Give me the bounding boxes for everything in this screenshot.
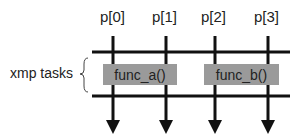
task-box-func-b: func_b() — [204, 64, 279, 85]
task-label: func_a() — [114, 67, 165, 83]
process-label-2: p[2] — [201, 8, 226, 25]
group-label: xmp tasks — [10, 65, 73, 81]
process-label-1: p[1] — [152, 8, 177, 25]
task-box-func-a: func_a() — [103, 64, 177, 85]
arrow-down-icons — [106, 120, 275, 134]
process-label-0: p[0] — [100, 8, 125, 25]
process-label-3: p[3] — [254, 8, 279, 25]
task-label: func_b() — [216, 67, 267, 83]
curly-brace-icon — [80, 58, 88, 92]
